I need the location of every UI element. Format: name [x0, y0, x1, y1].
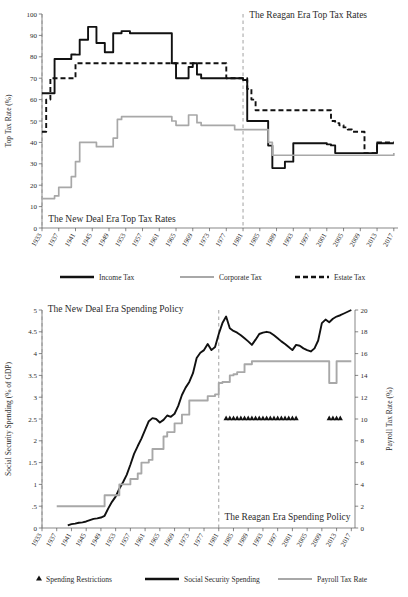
y-tick-left-label: 2: [34, 437, 38, 445]
x-tick-label: 1957: [130, 232, 144, 249]
legend-spending-restrictions-label: Spending Restrictions: [46, 575, 112, 584]
legend-spending-restrictions-swatch: [36, 575, 42, 580]
x-tick-label: 1933: [30, 532, 44, 549]
y-tick-right-label: 16: [361, 350, 369, 358]
y-tick-left-label: 3.5: [28, 372, 37, 380]
x-tick-label: 1953: [103, 532, 117, 549]
x-tick-label: 1937: [47, 232, 61, 249]
x-tick-label: 1965: [148, 532, 162, 549]
x-tick-label: 2005: [295, 532, 309, 549]
x-tick-label: 1937: [45, 532, 59, 549]
income-tax-line: [42, 27, 394, 168]
y-tick-left-label: .5: [32, 503, 38, 511]
legend-social-security-spending-label: Social Security Spending: [184, 575, 260, 584]
x-tick-label: 2017: [382, 232, 396, 249]
x-tick-label: 1977: [192, 532, 206, 549]
x-tick-label: 1961: [133, 532, 147, 549]
x-tick-label: 1969: [162, 532, 176, 549]
social-security-spending-line: [68, 310, 352, 525]
y-tick-label: 30: [30, 160, 38, 168]
legend-spending-restrictions: Spending Restrictions: [36, 575, 112, 584]
x-tick-label: 1957: [118, 532, 132, 549]
figure-container: 0102030405060708090100Top Tax Rate (%)19…: [0, 0, 408, 597]
x-tick-label: 1941: [63, 232, 77, 249]
y-tick-left-label: 3: [34, 394, 38, 402]
spending-restrictions-markers: [224, 416, 343, 421]
new-deal-spending-annotation: The New Deal Era Spending Policy: [48, 304, 184, 314]
y-tick-right-label: 0: [361, 525, 365, 533]
y-tick-left-label: 1: [34, 481, 38, 489]
x-tick-label: 2017: [339, 532, 353, 549]
x-tick-label: 1981: [231, 232, 245, 249]
reagan-spending-annotation: The Reagan Era Spending Policy: [224, 512, 350, 522]
x-tick-label: 1973: [197, 232, 211, 249]
x-tick-label: 1961: [147, 232, 161, 249]
x-tick-label: 2009: [310, 532, 324, 549]
y-axis-title: Top Tax Rate (%): [4, 94, 13, 148]
x-tick-label: 1973: [177, 532, 191, 549]
legend-payroll-tax-rate: Payroll Tax Rate: [278, 575, 368, 584]
x-tick-label: 1945: [80, 232, 94, 249]
x-tick-label: 1949: [97, 232, 111, 249]
y-tick-label: 0: [34, 225, 38, 233]
legend-estate-tax-label: Estate Tax: [334, 273, 365, 282]
top-tax-rates-chart-panel: 0102030405060708090100Top Tax Rate (%)19…: [0, 0, 408, 296]
y-tick-label: 50: [30, 118, 38, 126]
y-tick-right-label: 18: [361, 328, 369, 336]
reagan-annotation: The Reagan Era Top Tax Rates: [249, 10, 367, 20]
x-tick-label: 2013: [365, 232, 379, 249]
x-tick-label: 2005: [331, 232, 345, 249]
x-tick-label: 1941: [59, 532, 73, 549]
y-tick-right-label: 4: [361, 481, 365, 489]
x-tick-label: 1953: [114, 232, 128, 249]
y-tick-label: 20: [30, 182, 38, 190]
legend-corporate-tax: Corporate Tax: [180, 273, 262, 282]
x-tick-label: 1993: [281, 232, 295, 249]
y-tick-label: 10: [30, 203, 38, 211]
legend-income-tax: Income Tax: [60, 273, 135, 282]
y-tick-label: 80: [30, 53, 38, 61]
legend-estate-tax: Estate Tax: [295, 273, 365, 282]
payroll-tax-rate-line: [57, 361, 352, 506]
x-tick-label: 1989: [264, 232, 278, 249]
x-tick-label: 2001: [280, 532, 294, 549]
x-tick-label: 2013: [324, 532, 338, 549]
y-tick-right-label: 2: [361, 503, 365, 511]
y-tick-label: 100: [27, 11, 38, 19]
y-tick-label: 40: [30, 139, 38, 147]
x-tick-label: 1985: [221, 532, 235, 549]
x-tick-label: 1933: [30, 232, 44, 249]
spending-restriction-marker: [293, 416, 298, 421]
x-tick-label: 1993: [251, 532, 265, 549]
y-tick-left-label: 5: [34, 307, 38, 315]
y-tick-label: 60: [30, 96, 38, 104]
y-tick-right-label: 10: [361, 416, 369, 424]
y-tick-left-label: 2.5: [28, 416, 37, 424]
legend-income-tax-label: Income Tax: [99, 273, 135, 282]
x-tick-label: 1969: [181, 232, 195, 249]
estate-tax-line: [42, 63, 394, 153]
x-tick-label: 1945: [74, 532, 88, 549]
spending-restriction-marker: [338, 416, 343, 421]
x-tick-label: 1997: [298, 232, 312, 249]
top-tax-rates-svg: 0102030405060708090100Top Tax Rate (%)19…: [0, 0, 408, 296]
x-tick-label: 1989: [236, 532, 250, 549]
x-tick-label: 1985: [248, 232, 262, 249]
x-tick-label: 1981: [207, 532, 221, 549]
y-tick-right-label: 14: [361, 372, 369, 380]
corporate-tax-line: [42, 115, 394, 199]
new-deal-annotation: The New Deal Era Top Tax Rates: [48, 214, 176, 224]
y-tick-right-label: 6: [361, 459, 365, 467]
spending-policy-svg: 0.511.522.533.544.5502468101214161820Soc…: [0, 296, 408, 597]
x-tick-label: 1949: [89, 532, 103, 549]
legend-payroll-tax-rate-label: Payroll Tax Rate: [317, 575, 368, 584]
spending-policy-chart-panel: 0.511.522.533.544.5502468101214161820Soc…: [0, 296, 408, 597]
y-tick-left-label: 0: [34, 525, 38, 533]
x-tick-label: 1965: [164, 232, 178, 249]
y-tick-label: 70: [30, 75, 38, 83]
y-tick-right-label: 12: [361, 394, 369, 402]
y-tick-label: 90: [30, 32, 38, 40]
y-tick-right-label: 8: [361, 437, 365, 445]
x-tick-label: 1997: [265, 532, 279, 549]
y-tick-left-label: 1.5: [28, 459, 37, 467]
